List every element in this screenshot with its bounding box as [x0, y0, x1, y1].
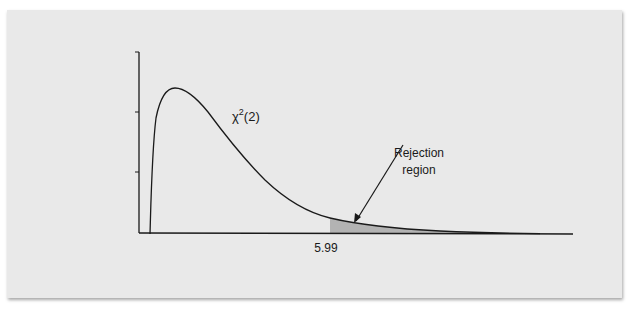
chi-square-density-curve — [150, 88, 540, 234]
x-tick-label-critical: 5.99 — [314, 241, 338, 255]
annotation-line2: region — [402, 163, 435, 177]
curve-label: χ2(2) — [232, 107, 260, 124]
annotation-arrow — [356, 145, 403, 221]
rejection-region-shade — [330, 218, 485, 233]
chi-square-chart: χ2(2) Rejection region 5.99 — [0, 0, 634, 316]
